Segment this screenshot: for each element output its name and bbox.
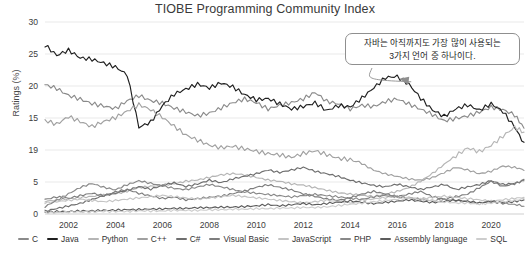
- legend-item[interactable]: Python: [88, 234, 128, 244]
- legend-swatch-icon: [137, 238, 148, 241]
- legend-label: PHP: [354, 234, 371, 244]
- callout-line-1: 자바는 아직까지도 가장 많이 사용되는: [364, 38, 502, 48]
- y-tick-label: 25: [28, 49, 38, 59]
- x-tick-label: 2014: [341, 220, 360, 230]
- legend-label: Java: [61, 234, 79, 244]
- y-tick-label: 5: [33, 177, 38, 187]
- callout-arrowhead: [399, 77, 409, 85]
- legend-label: C: [32, 234, 38, 244]
- legend-swatch-icon: [380, 238, 391, 241]
- x-tick-label: 2002: [59, 220, 78, 230]
- series-lines: [45, 46, 524, 214]
- series-line: [45, 126, 524, 202]
- legend-swatch-icon: [209, 238, 220, 241]
- legend-item[interactable]: JavaScript: [278, 234, 331, 244]
- x-axis-ticks: 2002200420062008201020122014201620182020: [59, 220, 501, 230]
- x-tick-label: 2012: [294, 220, 313, 230]
- legend-label: C++: [151, 234, 167, 244]
- y-tick-label: 30: [28, 17, 38, 27]
- legend-item[interactable]: C#: [176, 234, 201, 244]
- callout-line-2: 3가지 언어 중 하나이다.: [351, 50, 514, 63]
- y-axis-ticks: 302520151950: [28, 17, 38, 219]
- series-line: [45, 103, 524, 181]
- y-tick-label: 15: [28, 113, 38, 123]
- x-tick-label: 2008: [200, 220, 219, 230]
- legend-label: SQL: [490, 234, 507, 244]
- legend-swatch-icon: [340, 238, 351, 241]
- legend-item[interactable]: C++: [137, 234, 167, 244]
- x-tick-label: 2006: [153, 220, 172, 230]
- legend-label: C#: [190, 234, 201, 244]
- legend-label: Visual Basic: [223, 234, 268, 244]
- legend-item[interactable]: Java: [47, 234, 79, 244]
- legend-label: JavaScript: [292, 234, 331, 244]
- legend-item[interactable]: C: [18, 234, 38, 244]
- legend-item[interactable]: SQL: [476, 234, 507, 244]
- legend-label: Assembly language: [394, 234, 467, 244]
- legend-swatch-icon: [476, 238, 487, 241]
- legend-swatch-icon: [176, 238, 187, 241]
- legend-swatch-icon: [278, 238, 289, 241]
- legend-item[interactable]: Visual Basic: [209, 234, 268, 244]
- x-tick-label: 2018: [435, 220, 454, 230]
- chart-figure: TIOBE Programming Community Index Rating…: [0, 0, 530, 258]
- x-tick-label: 2020: [482, 220, 501, 230]
- y-tick-label: 19: [28, 145, 38, 155]
- x-tick-label: 2004: [106, 220, 125, 230]
- x-tick-label: 2016: [388, 220, 407, 230]
- legend-swatch-icon: [47, 238, 58, 241]
- y-tick-label: 20: [28, 81, 38, 91]
- legend-swatch-icon: [18, 238, 29, 241]
- legend-item[interactable]: Assembly language: [380, 234, 467, 244]
- legend-label: Python: [102, 234, 128, 244]
- legend-item[interactable]: PHP: [340, 234, 371, 244]
- java-annotation-callout: 자바는 아직까지도 가장 많이 사용되는 3가지 언어 중 하나이다.: [345, 33, 520, 65]
- chart-legend: CJavaPythonC++C#Visual BasicJavaScriptPH…: [18, 234, 523, 244]
- x-tick-label: 2010: [247, 220, 266, 230]
- y-tick-label: 0: [33, 209, 38, 219]
- legend-swatch-icon: [88, 238, 99, 241]
